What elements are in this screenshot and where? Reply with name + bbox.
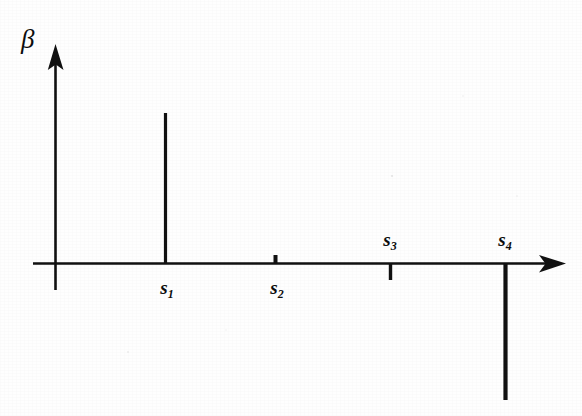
beta-axis xyxy=(48,44,64,290)
s-axis xyxy=(33,255,566,273)
tick-label-subscript: 1 xyxy=(168,287,174,301)
plot-area xyxy=(0,0,582,416)
stem-group xyxy=(166,113,506,400)
figure-canvas: β s1s2s3s4 xyxy=(0,0,582,416)
tick-label-s4: s4 xyxy=(498,230,511,249)
beta-axis-label: β xyxy=(21,26,34,53)
tick-label-s1: s1 xyxy=(160,278,173,297)
tick-label-subscript: 3 xyxy=(391,239,397,253)
tick-label-subscript: 2 xyxy=(278,287,284,301)
scan-artifacts xyxy=(127,95,518,353)
tick-label-s2: s2 xyxy=(270,278,283,297)
tick-label-s3: s3 xyxy=(383,230,396,249)
tick-label-subscript: 4 xyxy=(506,239,512,253)
